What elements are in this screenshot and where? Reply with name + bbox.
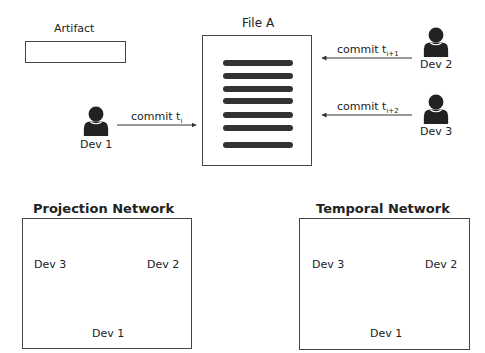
proj-dev2-label: Dev 2 <box>147 258 179 271</box>
dev1-label: Dev 1 <box>80 138 112 151</box>
person-icon-dev2 <box>424 28 448 57</box>
dev2-label: Dev 2 <box>420 58 452 71</box>
temp-dev1-label: Dev 1 <box>370 327 402 340</box>
temp-dev3-label: Dev 3 <box>312 258 344 271</box>
temp-dev2-label: Dev 2 <box>425 258 457 271</box>
dev3-label: Dev 3 <box>420 125 452 138</box>
commit-label-dev1: commit ti <box>131 110 182 125</box>
proj-dev1-label: Dev 1 <box>92 327 124 340</box>
commit-label-dev2: commit ti+1 <box>337 43 399 58</box>
proj-dev3-label: Dev 3 <box>34 258 66 271</box>
temporal-network-title: Temporal Network <box>316 201 450 216</box>
projection-network-title: Projection Network <box>33 201 174 216</box>
person-icon-dev3 <box>424 95 448 124</box>
person-icon-dev1 <box>84 107 108 136</box>
commit-label-dev3: commit ti+2 <box>337 100 399 115</box>
